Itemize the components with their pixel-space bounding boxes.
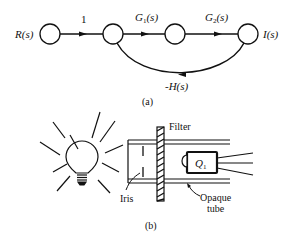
filter xyxy=(157,127,164,201)
arrow-icon xyxy=(187,183,191,188)
arrow-icon xyxy=(214,32,222,37)
output-label: I(s) xyxy=(262,28,279,41)
node-2 xyxy=(103,24,123,44)
caption-a: (a) xyxy=(142,96,153,108)
feedback-branch xyxy=(117,43,244,73)
phototransistor: Q1 xyxy=(182,152,253,175)
iris-label: Iris xyxy=(120,193,133,204)
branch-gain-g1: G1(s) xyxy=(135,11,158,25)
light-bulb-icon xyxy=(40,112,123,193)
branch-gain-g2: G2(s) xyxy=(205,11,228,25)
signal-flow-graph: R(s) I(s) 1 G1(s) G2(s) -H(s) (a) xyxy=(14,11,279,108)
figure: R(s) I(s) 1 G1(s) G2(s) -H(s) (a) xyxy=(0,0,297,239)
filter-label: Filter xyxy=(169,121,191,132)
optical-setup: Iris Filter Q1 Opaque tube (b) xyxy=(40,112,253,232)
caption-b: (b) xyxy=(145,220,157,232)
node-3 xyxy=(165,24,185,44)
tube-label: tube xyxy=(207,203,225,214)
arrow-icon xyxy=(79,32,87,37)
input-label: R(s) xyxy=(14,28,34,41)
arrow-icon xyxy=(141,32,149,37)
node-input xyxy=(40,24,60,44)
node-output xyxy=(238,24,258,44)
opaque-label: Opaque xyxy=(200,192,232,203)
tube-pointer xyxy=(189,186,200,196)
feedback-gain: -H(s) xyxy=(165,80,189,93)
branch-gain-1: 1 xyxy=(81,13,87,25)
